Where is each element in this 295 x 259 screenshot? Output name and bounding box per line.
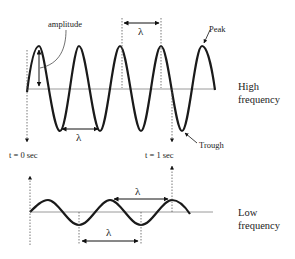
wavelength-label-top: λ [138,25,143,37]
wavelength-label-low-bottom: λ [106,226,111,238]
t0-label: t = 0 sec [9,150,38,160]
trough-label: Trough [199,140,224,150]
wavelength-label-low-top: λ [135,185,140,197]
trough-leader-arrow [185,133,197,143]
low-frequency-label-line2: frequency [238,219,280,232]
low-frequency-label-line1: Low [238,206,257,219]
high-frequency-label-line1: High [238,80,259,93]
wavelength-label-trough: λ [76,131,81,143]
t1-label: t = 1 sec [145,150,174,160]
peak-label: Peak [209,24,226,34]
high-frequency-label-line2: frequency [238,93,280,106]
amplitude-label: amplitude [48,19,82,29]
